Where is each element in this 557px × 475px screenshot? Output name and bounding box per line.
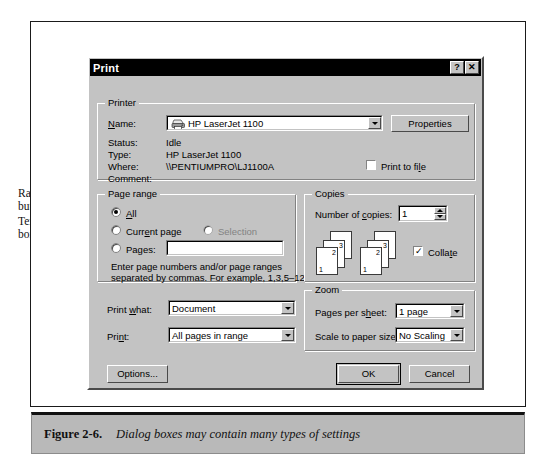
number-of-copies-label: Number of copies: [315, 209, 392, 220]
printer-where-label: Where: [108, 161, 139, 172]
printer-icon [171, 119, 186, 130]
scale-to-paper-size-combo[interactable]: No Scaling [395, 327, 465, 343]
figure-number: Figure 2-6. [44, 427, 102, 442]
zoom-group: Zoom Pages per sheet: 1 page Scale to pa… [304, 290, 476, 352]
printer-group-title: Printer [105, 98, 139, 108]
printer-type-value: HP LaserJet 1100 [166, 149, 241, 160]
properties-button-label: Properties [408, 119, 451, 129]
whats-this-button[interactable]: ? [450, 61, 464, 74]
number-of-copies-input[interactable]: 1 [398, 205, 448, 222]
page-range-hint-line1: Enter page numbers and/or page ranges [111, 261, 282, 272]
copies-group-title: Copies [312, 189, 348, 199]
options-button-label: Options... [117, 369, 158, 379]
spinner-down-icon[interactable] [434, 214, 446, 221]
printer-type-label: Type: [108, 149, 131, 160]
pages-per-sheet-combo[interactable]: 1 page [395, 303, 465, 319]
close-icon[interactable]: ✕ [465, 61, 479, 74]
radio-pages-label: Pages: [126, 244, 156, 255]
print-what-value: Document [169, 301, 295, 315]
radio-pages[interactable] [111, 243, 121, 253]
radio-all[interactable] [111, 207, 121, 217]
page-range-group-title: Page range [105, 189, 160, 199]
number-of-copies-spinner[interactable] [434, 207, 446, 220]
printer-name-combo[interactable]: HP LaserJet 1100 [166, 115, 383, 131]
chevron-down-icon [285, 307, 291, 310]
figure-caption-text: Dialog boxes may contain many types of s… [116, 427, 360, 442]
collate-illustration-stack-1: 3 21 [316, 231, 366, 275]
printer-status-label: Status: [108, 137, 138, 148]
print-what-label: Print what: [107, 304, 152, 315]
printer-group: Printer Name: HP LaserJet 1100 Propertie… [97, 103, 476, 181]
options-button[interactable]: Options... [107, 365, 168, 383]
print-what-combo[interactable]: Document [168, 300, 296, 316]
printer-name-value: HP LaserJet 1100 [188, 118, 263, 129]
chevron-down-icon [454, 334, 460, 337]
scale-to-paper-size-dropdown-button[interactable] [450, 329, 463, 341]
dialog-title: Print [93, 62, 449, 74]
print-range-label: Print: [107, 331, 129, 342]
scale-to-paper-size-label: Scale to paper size: [315, 331, 398, 342]
printer-status-value: Idle [166, 137, 181, 148]
collate-label: Collate [428, 247, 458, 258]
radio-current-page-label: Current page [126, 226, 181, 237]
ok-button-label: OK [362, 369, 376, 379]
print-to-file-checkbox[interactable] [366, 160, 376, 170]
pages-input-value [167, 241, 283, 255]
print-range-value: All pages in range [169, 328, 295, 342]
printer-name-label: Name: [108, 118, 136, 129]
collate-checkbox[interactable]: ✓ [413, 246, 423, 256]
chevron-down-icon [285, 334, 291, 337]
cancel-button-label: Cancel [425, 369, 455, 379]
radio-selection[interactable] [203, 225, 213, 235]
pages-input[interactable] [166, 240, 284, 256]
pages-per-sheet-dropdown-button[interactable] [450, 305, 463, 317]
print-range-dropdown-button[interactable] [281, 329, 294, 341]
pages-per-sheet-label: Pages per sheet: [315, 307, 387, 318]
radio-selection-label: Selection [218, 226, 257, 237]
print-range-combo[interactable]: All pages in range [168, 327, 296, 343]
dialog-title-bar: Print ? ✕ [90, 59, 481, 76]
collate-illustration-stack-2: 3 21 [360, 231, 410, 275]
copies-group: Copies Number of copies: 1 3 21 3 21 [304, 194, 476, 283]
printer-comment-label: Comment: [108, 173, 152, 184]
print-what-dropdown-button[interactable] [281, 302, 294, 314]
print-to-file-label: Print to file [381, 161, 426, 172]
check-icon: ✓ [415, 246, 423, 256]
zoom-group-title: Zoom [312, 285, 342, 295]
printer-where-value: \\PENTIUMPRO\LJ1100A [166, 161, 274, 172]
page-range-hint-line2: separated by commas. For example, 1,3,5–… [111, 272, 305, 283]
radio-all-label: All [126, 208, 137, 219]
properties-button[interactable]: Properties [391, 115, 469, 132]
page-range-group: Page range All Current page Selection Pa… [97, 194, 297, 283]
chevron-down-icon [372, 122, 378, 125]
printer-name-dropdown-button[interactable] [368, 117, 381, 129]
radio-current-page[interactable] [111, 225, 121, 235]
ok-button[interactable]: OK [338, 365, 399, 383]
chevron-down-icon [454, 310, 460, 313]
figure-caption-bar: Figure 2-6. Dialog boxes may contain man… [31, 412, 525, 454]
print-dialog: Print ? ✕ Printer Name: HP LaserJet 1100 [87, 56, 484, 390]
cancel-button[interactable]: Cancel [409, 365, 470, 383]
